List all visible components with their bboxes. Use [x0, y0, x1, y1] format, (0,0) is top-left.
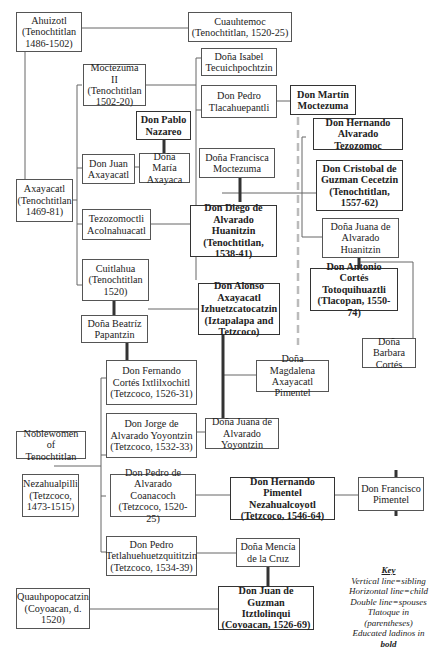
node-pedro-tlacahuepantli: Don Pedro Tlacahuepantli	[201, 85, 277, 118]
node-maria-axayaca: Doña María Axayaca	[139, 153, 190, 183]
node-cuitlahua: Cuitlahua (Tenochtitlan 1520)	[82, 259, 149, 301]
legend-title: Key	[345, 565, 432, 576]
legend-line-tlatoque: Tlatoque in (parentheses)	[345, 607, 432, 628]
node-noblewomen: Noblewomen of Tenochtitlan	[16, 431, 86, 459]
node-pedro-coanacoch: Don Pedro de Alvarado Coanacoch (Tetzcoc…	[110, 474, 196, 517]
node-isabel-tecuichpochtzin: Doña Isabel Tecuichpochtzin	[201, 48, 277, 76]
node-pedro-tetlahuehuetzquititzin: Don Pedro Tetlahuehuetzquititzin (Tetzco…	[106, 536, 197, 576]
node-cuauhtemoc: Cuauhtemoc (Tenochtitlan, 1520-25)	[188, 12, 292, 42]
node-juana-huanitzin: Doña Juana de Alvarado Huanitzin	[322, 218, 399, 258]
node-pablo-nazareo: Don Pablo Nazareo	[136, 111, 191, 140]
legend-line-child: Horizontal line=child	[345, 586, 432, 597]
node-francisca-moctezuma: Doña Francisca Moctezuma	[199, 148, 275, 178]
node-barbara-cortes: Doña Barbara Cortés	[362, 338, 416, 368]
node-jorge-yoyontzin: Don Jorge de Alvarado Yoyontzin (Tetzcoc…	[106, 413, 197, 458]
node-antonio-totoquihuaztli: Don Antonio Cortés Totoquihuaztli (Tlaco…	[310, 268, 398, 311]
legend-key: Key Vertical line=sibling Horizontal lin…	[345, 565, 432, 649]
node-axayacatl: Axayacatl (Tenochtitlan 1469-81)	[16, 179, 73, 222]
node-alonso-izhuetzcatocatzin: Don Alonso Axayacatl Izhuetzcatocatzin (…	[198, 283, 280, 335]
legend-line-ladinos: Educated ladinos in bold	[345, 628, 432, 649]
node-juana-yoyontzin: Doña Juana de Alvarado Yoyontzin	[205, 418, 279, 449]
node-cristobal-cecetzin: Don Cristobal de Guzman Cecetzin (Tenoch…	[316, 160, 403, 211]
node-hernando-tezozomoc: Don Hernando Alvarado Tezozomoc	[313, 118, 403, 150]
node-juan-axayacatl: Don Juan Axayacatl	[82, 154, 135, 184]
legend-ladinos-text: Educated ladinos in	[353, 628, 425, 638]
legend-bold-word: bold	[380, 639, 396, 649]
node-magdalena-pimentel: Doña Magdalena Axayacatl Pimentel	[256, 360, 329, 392]
node-hernando-nezahualcoyotl: Don Hernando Pimentel Nezahualcoyotl (Te…	[230, 477, 335, 520]
node-ahuizotl: Ahuizotl (Tenochtitlan 1486-1502)	[16, 12, 82, 52]
legend-line-spouses: Double line=spouses	[345, 597, 432, 608]
node-nezahualpilli: Nezahualpilli (Tetzcoco, 1473-1515)	[22, 474, 79, 517]
node-moctezuma-ii: Moctezuma II (Tenochtitlan 1502-20)	[83, 64, 146, 106]
legend-line-sibling: Vertical line=sibling	[345, 576, 432, 587]
node-diego-huanitzin: Don Diego de Alvarado Huanitzin (Tenocht…	[190, 205, 277, 257]
node-juan-itztlolinqui: Don Juan de Guzman Itztlolinqui (Coyoaca…	[218, 586, 314, 630]
node-martin-moctezuma: Don Martín Moctezuma	[290, 85, 356, 115]
node-mencia-cruz: Doña Mencía de la Cruz	[236, 538, 300, 567]
node-beatriz-papantzin: Doña Beatríz Papantzin	[81, 315, 148, 343]
node-tezozomoctli: Tezozomoctli Acolnahuacatl	[82, 209, 151, 240]
node-francisco-pimentel: Don Francisco Pimentel	[358, 477, 424, 511]
node-fernando-ixtlilxochitl: Don Fernando Cortés Ixtlilxochitl (Tetzc…	[106, 360, 197, 405]
node-quauhpopocatzin: Quauhpopocatzin (Coyoacan, d. 1520)	[16, 588, 90, 629]
